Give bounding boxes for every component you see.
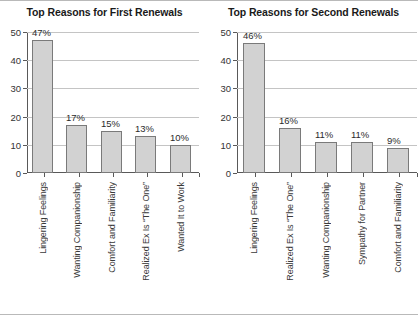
y-tick-label-first-0: 0 [16,168,21,179]
x-tick-mark [182,173,183,177]
y-tick-mark [23,60,27,61]
x-tick-mark [147,173,148,177]
y-tick-label-second-40: 40 [220,55,231,66]
y-tick-mark [233,60,237,61]
category-label: Realized Ex Is “The One” [285,182,295,281]
bar [170,145,191,173]
category-label: Wanted It to Work [176,182,186,252]
bar [315,142,337,173]
bar-value-label: 16% [279,115,298,126]
chart-panel-first-renewals: Top Reasons for First Renewals 010203040… [0,1,209,315]
y-tick-mark [23,145,27,146]
category-label: Comfort and Familiarity [107,182,117,273]
y-tick-mark [23,117,27,118]
category-label: Sympathy for Partner [357,182,367,265]
y-tick-mark [233,173,237,174]
bar-value-label: 13% [135,123,154,134]
bar-value-label: 47% [32,27,51,38]
figure-container: Top Reasons for First Renewals 010203040… [0,0,418,315]
y-tick-mark [23,32,27,33]
category-label: Lingering Feelings [38,182,48,254]
bar [387,148,409,173]
gridline [27,32,199,33]
x-tick-mark [327,173,328,177]
bar-value-label: 17% [66,112,85,123]
x-tick-mark [199,173,200,177]
y-tick-mark [233,88,237,89]
x-tick-mark [399,173,400,177]
bar [66,125,87,173]
y-tick-mark [233,117,237,118]
y-tick-label-first-50: 50 [10,27,21,38]
x-tick-mark [113,173,114,177]
y-tick-mark [23,173,27,174]
plot-area-second-renewals: 0102030405046%Lingering Feelings16%Reali… [237,32,417,173]
y-tick-mark [23,88,27,89]
plot-area-first-renewals: 0102030405047%Lingering Feelings17%Wanti… [27,32,199,173]
chart-title-first-renewals: Top Reasons for First Renewals [0,6,209,18]
y-tick-label-first-10: 10 [10,139,21,150]
bar [279,128,301,173]
bar [32,40,53,173]
category-label: Comfort and Familiarity [393,182,403,273]
y-tick-label-second-20: 20 [220,111,231,122]
bar [135,136,156,173]
bar-value-label: 11% [351,129,369,140]
y-tick-mark [233,32,237,33]
bar [351,142,373,173]
y-tick-label-second-30: 30 [220,83,231,94]
x-tick-mark [255,173,256,177]
bar-value-label: 46% [243,30,262,41]
y-tick-label-first-30: 30 [10,83,21,94]
category-label: Wanting Companionship [321,182,331,278]
y-tick-label-first-40: 40 [10,55,21,66]
bar [101,131,122,173]
y-axis-line-first [27,32,28,173]
bar-value-label: 15% [101,118,120,129]
chart-title-second-renewals: Top Reasons for Second Renewals [209,6,418,18]
x-tick-mark [44,173,45,177]
gridline [237,32,417,33]
chart-panel-second-renewals: Top Reasons for Second Renewals 01020304… [209,1,418,315]
bar-value-label: 10% [170,132,189,143]
x-tick-mark [79,173,80,177]
category-label: Realized Ex Is “The One” [141,182,151,281]
y-tick-label-second-50: 50 [220,27,231,38]
y-axis-line-second [237,32,238,173]
y-tick-label-second-10: 10 [220,139,231,150]
bar-value-label: 11% [315,129,333,140]
y-tick-label-first-20: 20 [10,111,21,122]
y-tick-label-second-0: 0 [226,168,231,179]
x-tick-mark [291,173,292,177]
x-tick-mark [363,173,364,177]
bar [243,43,265,173]
category-label: Wanting Companionship [72,182,82,278]
category-label: Lingering Feelings [249,182,259,254]
y-tick-mark [233,145,237,146]
bar-value-label: 9% [387,135,401,146]
